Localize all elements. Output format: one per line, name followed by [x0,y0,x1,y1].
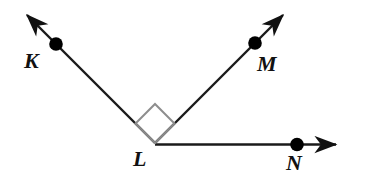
geometry-canvas [0,0,369,187]
point-label-K: K [24,50,39,72]
point-label-N: N [286,152,302,174]
geometry-diagram: K M L N [0,0,369,187]
point-dot-K [49,37,63,51]
right-angle-marker-KLM [136,104,175,143]
point-label-L: L [133,148,146,170]
point-label-M: M [257,53,277,75]
point-dot-M [248,36,262,50]
